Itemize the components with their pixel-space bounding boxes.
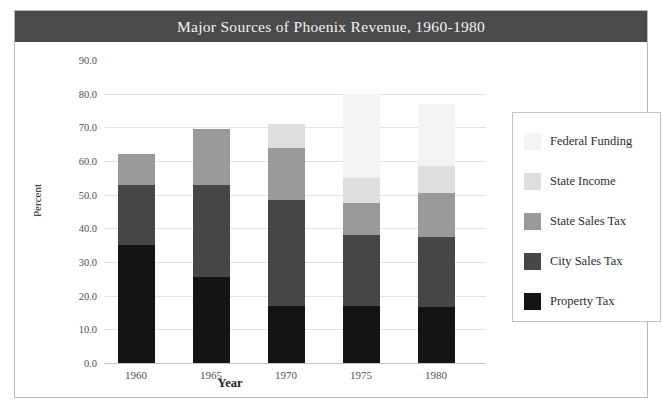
legend-item[interactable]: City Sales Tax (524, 251, 623, 271)
chart-title-bar: Major Sources of Phoenix Revenue, 1960-1… (15, 11, 647, 42)
bar-segment (268, 200, 305, 306)
legend-item[interactable]: Property Tax (524, 291, 615, 311)
legend-label: City Sales Tax (550, 254, 623, 269)
legend-swatch (524, 213, 541, 230)
bar-1980: 1980 (418, 104, 455, 363)
x-axis-tick-label: 1980 (425, 369, 447, 381)
bar-segment (193, 129, 230, 185)
y-axis-tick-label: 30.0 (79, 257, 97, 268)
legend-swatch (524, 293, 541, 310)
x-axis-tick-label: 1960 (125, 369, 147, 381)
legend-swatch (524, 133, 541, 150)
legend-item[interactable]: State Income (524, 171, 616, 191)
legend-swatch (524, 173, 541, 190)
bar-segment (418, 307, 455, 363)
x-axis-tick-label: 1965 (200, 369, 222, 381)
bar-segment (343, 306, 380, 363)
legend-label: Property Tax (550, 294, 615, 309)
bar-segment (343, 235, 380, 306)
chart-title: Major Sources of Phoenix Revenue, 1960-1… (177, 18, 485, 36)
x-axis-tick-label: 1970 (275, 369, 297, 381)
y-axis-tick-label: 40.0 (79, 223, 97, 234)
bar-segment (118, 185, 155, 246)
bar-segment (193, 277, 230, 363)
chart-figure: Major Sources of Phoenix Revenue, 1960-1… (14, 10, 648, 398)
x-axis-label: Year (15, 376, 445, 391)
bar-segment (418, 237, 455, 308)
bar-1975: 1975 (343, 94, 380, 363)
bar-segment (268, 306, 305, 363)
y-axis-tick-label: 80.0 (79, 88, 97, 99)
bar-segment (268, 124, 305, 148)
chart-legend: Federal FundingState IncomeState Sales T… (512, 112, 661, 322)
bar-segment (418, 166, 455, 193)
legend-item[interactable]: State Sales Tax (524, 211, 626, 231)
y-axis-label: Percent (31, 184, 43, 217)
legend-label: Federal Funding (550, 134, 632, 149)
gridline (104, 60, 486, 61)
y-axis-tick-label: 0.0 (84, 358, 97, 369)
bar-1960: 1960 (118, 154, 155, 363)
legend-label: State Income (550, 174, 616, 189)
y-axis-tick-label: 70.0 (79, 122, 97, 133)
legend-label: State Sales Tax (550, 214, 626, 229)
bar-segment (343, 178, 380, 203)
y-axis-tick-label: 50.0 (79, 189, 97, 200)
y-axis-tick-label: 90.0 (79, 55, 97, 66)
y-axis-tick-label: 10.0 (79, 324, 97, 335)
bar-1965: 1965 (193, 129, 230, 363)
y-axis-tick-label: 60.0 (79, 156, 97, 167)
bar-segment (343, 203, 380, 235)
y-axis-tick-label: 20.0 (79, 290, 97, 301)
x-axis-line (104, 363, 486, 364)
x-axis-tick-label: 1975 (350, 369, 372, 381)
plot-area: 0.010.020.030.040.050.060.070.080.090.0 … (104, 60, 486, 363)
bar-segment (418, 104, 455, 166)
legend-swatch (524, 253, 541, 270)
bar-segment (418, 193, 455, 237)
bar-segment (118, 245, 155, 363)
gridline (104, 94, 486, 95)
bar-segment (118, 154, 155, 184)
bar-segment (268, 148, 305, 200)
bar-1970: 1970 (268, 124, 305, 363)
bar-segment (343, 94, 380, 178)
bar-segment (193, 185, 230, 278)
legend-item[interactable]: Federal Funding (524, 131, 632, 151)
